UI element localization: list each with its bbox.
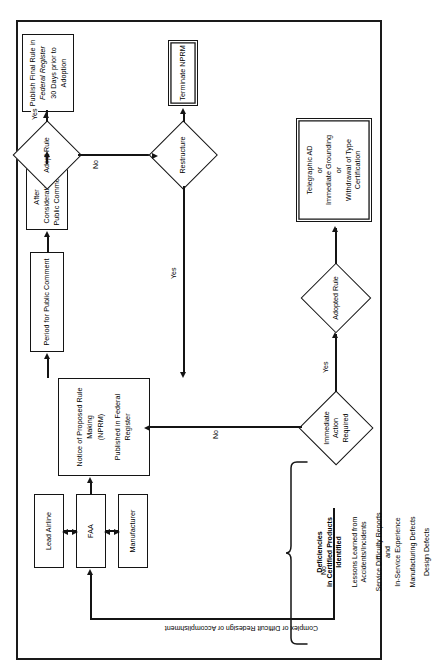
adopt-no-line [78, 154, 154, 156]
inputs-item-3-line1: Design Defects [423, 458, 433, 646]
restructure-to-terminate-arrow [180, 108, 186, 114]
faa-manufacturer-arrow-down [114, 529, 120, 535]
period-to-after-arrow [44, 231, 50, 237]
node-faa-main: FAA [76, 494, 106, 568]
inputs-brace [286, 460, 308, 646]
node-telegraphic-line2: or [315, 167, 325, 174]
inputs-brace-svg [286, 460, 308, 646]
edge-label-adopt-no: No [92, 159, 99, 170]
node-period-comment-label: Period for Public Comment [42, 258, 52, 345]
node-faa-main-label: FAA [86, 524, 96, 538]
faa-lead-airline-arrow-down [72, 529, 78, 535]
node-manufacturer-main-label: Manufacturer [128, 510, 138, 553]
inputs-header-line1: Deficiencies [316, 458, 326, 646]
restructure-yes-line [183, 186, 185, 372]
adopted-to-telegraphic-arrow [332, 226, 338, 232]
inputs-item: Design Defects [423, 458, 433, 646]
inputs-header: Deficiencies in Certified Products Ident… [316, 458, 345, 646]
decision-restructure: Restructure [150, 122, 216, 188]
rail-horizontal-line [90, 574, 92, 620]
inputs-item-1-line1: Service Difficulty Reports [375, 458, 385, 646]
adopt-yes-arrow [43, 112, 49, 118]
after-to-adopt-line [46, 156, 48, 164]
node-nprm: Notice of Proposed Rule Making (NPRM) Pu… [58, 378, 150, 476]
node-publish-final-line3: 30 Days prior to Adoption [49, 38, 68, 108]
inputs-item-2-line1: Manufacturing Defects [409, 458, 419, 646]
node-nprm-line2: (NPRM) [96, 414, 106, 440]
node-terminate-nprm-label: Terminate NPRM [178, 45, 188, 100]
node-terminate-nprm: Terminate NPRM [168, 40, 198, 106]
inputs-header-line3: Identified [335, 458, 345, 646]
inputs-header-line2: in Certified Products [326, 458, 336, 646]
edge-label-restructure-yes: Yes [170, 267, 177, 280]
adopted-to-telegraphic-line [335, 228, 337, 264]
adopt-to-restructure-arrow [152, 153, 158, 159]
edge-label-adopt-yes: Yes [31, 108, 38, 121]
immediate-no-line [150, 426, 302, 428]
decision-immediate-action-line3: Required [341, 413, 350, 442]
node-period-comment: Period for Public Comment [30, 252, 64, 352]
node-nprm-line1: Notice of Proposed Rule Making [75, 382, 94, 472]
node-telegraphic-line1: Telegraphic AD [305, 145, 315, 194]
decision-immediate-action-line2: Action [331, 418, 340, 438]
node-telegraphic-line5: Withdrawal of Type Certification [344, 122, 363, 218]
node-publish-final: Publish Final Rule in Federal Register 3… [22, 34, 74, 112]
faa-to-nprm-line [90, 482, 92, 494]
faa-to-nprm-arrow [87, 477, 93, 483]
immediate-no-arrow [144, 425, 150, 431]
node-manufacturer-main: Manufacturer [118, 494, 148, 568]
inputs-list: Deficiencies in Certified Products Ident… [316, 458, 433, 646]
inputs-item-0-line1: Lessons Learned from [351, 458, 361, 646]
rail-arrowhead [87, 569, 93, 575]
faa-lead-airline-arrow-up [62, 529, 68, 535]
node-telegraphic-line3: Immediate Grounding [324, 135, 334, 205]
faa-manufacturer-arrow-up [104, 529, 110, 535]
decision-adopted-rule-label: Adopted Rule [302, 264, 370, 332]
inputs-item-1-line3: In-Service Experience [394, 458, 404, 646]
period-to-after-line [47, 236, 49, 252]
inputs-item: Service Difficulty Reports and In-Servic… [375, 458, 404, 646]
edge-label-immediate-no: No [212, 429, 219, 440]
node-publish-final-line1: Publish Final Rule in [28, 40, 38, 107]
decision-adopted-rule: Adopted Rule [302, 264, 370, 332]
restructure-yes-arrow [180, 372, 186, 378]
decision-immediate-action: Immediate Action Required [300, 392, 372, 464]
inputs-item-0-line2: Accidents/Incidents [360, 458, 370, 646]
node-telegraphic-line4: or [334, 167, 344, 174]
nprm-to-period-line [47, 358, 49, 378]
inputs-item: Lessons Learned from Accidents/Incidents [351, 458, 370, 646]
after-to-adopt-arrow [44, 151, 50, 157]
node-publish-final-line2: Federal Register [38, 46, 48, 100]
decision-immediate-action-line1: Immediate [322, 411, 331, 445]
immediate-yes-line [335, 334, 337, 392]
decision-immediate-action-label: Immediate Action Required [300, 392, 372, 464]
node-telegraphic: Telegraphic AD or Immediate Grounding or… [296, 118, 372, 222]
inputs-item: Manufacturing Defects [409, 458, 419, 646]
nprm-to-period-arrow [44, 353, 50, 359]
node-lead-airline-main-label: Lead Airline [44, 512, 54, 550]
decision-restructure-label: Restructure [150, 122, 216, 188]
inputs-item-1-line2: and [384, 458, 394, 646]
edge-label-immediate-yes: Yes [322, 361, 329, 374]
node-lead-airline-main: Lead Airline [34, 494, 64, 568]
node-nprm-line3: Published in Federal Register [113, 382, 132, 472]
